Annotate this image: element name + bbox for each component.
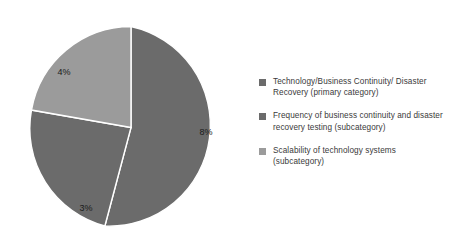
legend-item-primary-category[interactable]: Technology/Business Continuity/ Disaster… <box>259 76 445 98</box>
chart-legend: Technology/Business Continuity/ Disaster… <box>259 76 445 179</box>
legend-item-label: Frequency of business continuity and dis… <box>273 110 445 132</box>
pie-slice-scalability[interactable] <box>31 26 131 127</box>
legend-item-label: Technology/Business Continuity/ Disaster… <box>273 76 445 98</box>
legend-item-testing-frequency[interactable]: Frequency of business continuity and dis… <box>259 110 445 132</box>
pie-label-scalability: 4% <box>57 67 70 77</box>
pie-chart-plot-area: 8% 3% 4% <box>30 12 233 243</box>
legend-swatch-icon <box>259 79 266 86</box>
pie-label-primary-category: 8% <box>199 127 212 137</box>
pie-chart-svg: 8% 3% 4% <box>30 12 233 243</box>
pie-chart-figure: 8% 3% 4% Technology/Business Continuity/… <box>0 0 453 251</box>
legend-item-scalability[interactable]: Scalability of technology systems (subca… <box>259 145 445 167</box>
legend-swatch-icon <box>259 148 266 155</box>
legend-item-label: Scalability of technology systems (subca… <box>273 145 445 167</box>
pie-label-testing-frequency: 3% <box>79 203 92 213</box>
legend-swatch-icon <box>259 113 266 120</box>
